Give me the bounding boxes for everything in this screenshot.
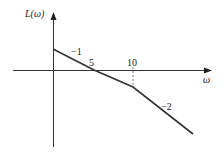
slope-label-second: −2 [161, 101, 172, 112]
tick-label-5: 5 [89, 57, 94, 68]
magnitude-asymptote [53, 49, 193, 134]
x-axis-label: ω [203, 74, 210, 85]
slope-label-first: −1 [71, 46, 82, 57]
tick-label-10: 10 [127, 57, 137, 68]
y-axis-label: L(ω) [24, 8, 45, 20]
bode-diagram: L(ω) ω 5 10 −1 −2 [0, 0, 224, 158]
